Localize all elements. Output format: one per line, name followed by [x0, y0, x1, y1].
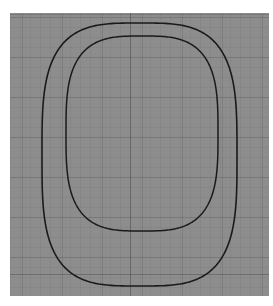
cad-drawing-canvas[interactable] — [10, 13, 269, 296]
curve-layer — [10, 13, 269, 296]
inner-contour-curve[interactable] — [66, 36, 218, 231]
app-root — [0, 0, 273, 306]
